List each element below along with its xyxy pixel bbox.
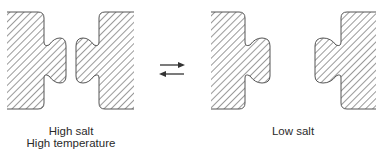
associated-state: [7, 12, 134, 109]
separated-right-molecule-shape: [315, 12, 376, 109]
dissociated-state: [211, 12, 376, 109]
associated-condition-label: High salt High temperature: [0, 125, 142, 149]
low-salt-label: Low salt: [243, 125, 343, 137]
right-molecule-shape: [76, 12, 134, 109]
high-salt-label: High salt: [0, 125, 142, 137]
separated-left-molecule-shape: [211, 12, 270, 109]
dissociated-condition-label: Low salt: [243, 125, 343, 137]
equilibrium-arrows-icon: [159, 62, 185, 77]
left-molecule-shape: [7, 12, 66, 109]
high-temperature-label: High temperature: [0, 137, 142, 149]
